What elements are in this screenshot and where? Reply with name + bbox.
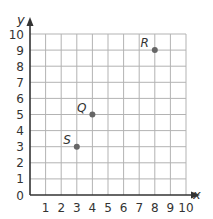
y-tick-label: 0 xyxy=(16,189,24,203)
x-tick-label: 4 xyxy=(89,201,97,215)
y-tick-label: 8 xyxy=(16,60,24,74)
y-tick-label: 1 xyxy=(16,172,24,186)
point-marker-icon xyxy=(74,144,80,150)
point-marker-icon xyxy=(152,47,158,53)
y-tick-label: 7 xyxy=(16,76,24,90)
x-tick-label: 9 xyxy=(167,201,175,215)
y-tick-label: 2 xyxy=(16,156,24,170)
y-tick-label: 3 xyxy=(16,140,24,154)
point-label: R xyxy=(140,36,148,50)
axes xyxy=(27,17,201,199)
x-tick-label: 5 xyxy=(104,201,112,215)
x-tick-label: 3 xyxy=(73,201,81,215)
x-tick-label: 6 xyxy=(120,201,128,215)
y-tick-label: 5 xyxy=(16,108,24,122)
data-points: RQS xyxy=(63,36,158,150)
point-marker-icon xyxy=(89,112,95,118)
x-tick-label: 2 xyxy=(57,201,65,215)
y-axis-arrow-icon xyxy=(27,17,34,26)
point-label: S xyxy=(63,133,71,147)
x-tick-label: 1 xyxy=(42,201,50,215)
x-axis-label: x xyxy=(192,187,201,202)
x-tick-label: 8 xyxy=(151,201,159,215)
y-tick-labels: 012345678910 xyxy=(9,28,24,203)
coordinate-grid: 12345678910 012345678910 RQS x y xyxy=(0,0,213,219)
y-tick-label: 6 xyxy=(16,92,24,106)
x-tick-labels: 12345678910 xyxy=(42,201,194,215)
point-label: Q xyxy=(77,101,86,115)
x-tick-label: 7 xyxy=(135,201,143,215)
x-tick-label: 10 xyxy=(178,201,193,215)
y-tick-label: 9 xyxy=(16,44,24,58)
y-tick-label: 4 xyxy=(16,124,24,138)
y-tick-label: 10 xyxy=(9,28,24,42)
y-axis-label: y xyxy=(16,12,25,27)
grid-lines xyxy=(30,34,186,195)
